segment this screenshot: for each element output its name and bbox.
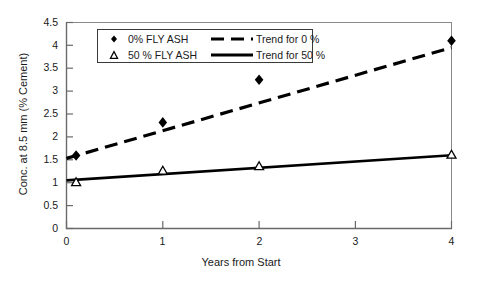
x-tick-label: 4 (437, 236, 466, 247)
filled-diamond-icon (106, 31, 122, 47)
chart-legend: 0% FLY ASH Trend for 0 % 50 % FLY ASH Tr… (97, 29, 313, 63)
open-triangle-icon (106, 47, 122, 63)
data-point-triangle (158, 166, 167, 174)
trend-line-0-percent (67, 48, 452, 159)
dashed-line-icon (210, 31, 254, 47)
data-point-diamond (159, 117, 168, 128)
legend-row: 50 % FLY ASH Trend for 50 % (98, 47, 312, 63)
chart-figure: 0 0.5 1 1.5 2 2.5 3 3.5 4 4.5 0 1 2 3 4 … (0, 0, 482, 283)
data-point-diamond (447, 36, 456, 47)
legend-label-trend-50: Trend for 50 % (256, 49, 325, 61)
solid-line-icon (210, 47, 254, 63)
x-axis-title: Years from Start (0, 256, 482, 268)
legend-label-series-0: 0% FLY ASH (128, 33, 188, 45)
x-tick-marks (67, 221, 452, 229)
x-tick-label: 3 (341, 236, 370, 247)
legend-label-series-50: 50 % FLY ASH (128, 49, 197, 61)
data-point-triangle (255, 162, 264, 170)
x-tick-label: 0 (52, 236, 81, 247)
x-tick-label: 1 (148, 236, 177, 247)
y-axis-title: Conc. at 8.5 mm (% Cement) (17, 19, 29, 229)
data-point-diamond (255, 74, 264, 85)
legend-label-trend-0: Trend for 0 % (256, 33, 319, 45)
legend-row: 0% FLY ASH Trend for 0 % (98, 31, 312, 47)
data-point-diamond (72, 150, 81, 161)
x-tick-label: 2 (245, 236, 274, 247)
